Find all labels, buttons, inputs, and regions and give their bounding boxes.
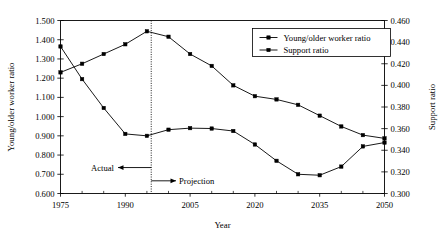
y-tick-label-left: 1.100 xyxy=(35,92,54,102)
series-line xyxy=(61,46,385,175)
data-point xyxy=(124,132,127,135)
legend-marker xyxy=(267,48,270,51)
data-point xyxy=(275,98,278,101)
x-tick-label: 2035 xyxy=(311,200,328,210)
data-point xyxy=(145,134,148,137)
legend-label: Young/older worker ratio xyxy=(284,33,371,43)
x-tick-label: 2005 xyxy=(182,200,199,210)
y-tick-label-right: 0.420 xyxy=(391,59,410,69)
x-tick-label: 1975 xyxy=(52,200,69,210)
data-point xyxy=(340,165,343,168)
data-point xyxy=(80,62,83,65)
y-tick-label-right: 0.380 xyxy=(391,102,410,112)
data-point xyxy=(253,143,256,146)
chart-legend: Young/older worker ratioSupport ratio xyxy=(253,29,391,57)
data-point xyxy=(340,125,343,128)
y-tick-label-left: 1.300 xyxy=(35,54,54,64)
projection-arrow-head xyxy=(171,178,177,183)
data-point xyxy=(296,103,299,106)
x-tick-label: 2050 xyxy=(376,200,393,210)
data-point xyxy=(210,64,213,67)
data-point xyxy=(102,52,105,55)
annotation-layer: Actual Projection xyxy=(91,163,215,186)
data-point xyxy=(167,128,170,131)
data-point xyxy=(253,94,256,97)
y-axis-left-ticks: 0.6000.7000.8000.9001.0001.1001.2001.300… xyxy=(35,16,64,199)
y-tick-label-left: 1.500 xyxy=(35,16,54,26)
x-tick-label: 2020 xyxy=(246,200,263,210)
projection-label: Projection xyxy=(179,176,215,186)
y-tick-label-right: 0.340 xyxy=(391,145,410,155)
data-point xyxy=(318,174,321,177)
y-tick-label-left: 0.700 xyxy=(35,169,54,179)
data-point xyxy=(296,173,299,176)
data-point xyxy=(188,126,191,129)
data-point xyxy=(275,159,278,162)
y-tick-label-right: 0.440 xyxy=(391,37,410,47)
data-point xyxy=(59,45,62,48)
y-tick-label-right: 0.360 xyxy=(391,124,410,134)
actual-arrow-head xyxy=(118,165,124,170)
y-axis-title-left: Young/older worker ratio xyxy=(6,62,16,152)
data-point xyxy=(361,145,364,148)
data-point xyxy=(124,43,127,46)
y-tick-label-right: 0.300 xyxy=(391,189,410,199)
data-point xyxy=(80,77,83,80)
y-tick-label-right: 0.460 xyxy=(391,16,410,26)
data-point xyxy=(232,129,235,132)
legend-marker xyxy=(267,36,270,39)
x-axis-title: Year xyxy=(214,220,230,230)
y-tick-label-left: 1.000 xyxy=(35,112,54,122)
actual-label: Actual xyxy=(91,163,115,173)
legend-label: Support ratio xyxy=(284,45,329,55)
y-tick-label-right: 0.320 xyxy=(391,167,410,177)
series-1 xyxy=(59,45,386,177)
x-axis-ticks: 197519902005202020352050 xyxy=(52,194,393,210)
y-tick-label-left: 1.200 xyxy=(35,73,54,83)
y-tick-label-right: 0.400 xyxy=(391,80,410,90)
y-tick-label-left: 1.400 xyxy=(35,35,54,45)
data-point xyxy=(145,30,148,33)
y-axis-title-right: Support ratio xyxy=(427,83,437,130)
data-point xyxy=(59,71,62,74)
x-tick-label: 1990 xyxy=(117,200,134,210)
data-point xyxy=(232,84,235,87)
y-tick-label-left: 0.800 xyxy=(35,150,54,160)
data-point xyxy=(383,137,386,140)
chart-container: 0.6000.7000.8000.9001.0001.1001.2001.300… xyxy=(0,0,447,242)
data-point xyxy=(383,141,386,144)
data-point xyxy=(188,52,191,55)
y-tick-label-left: 0.600 xyxy=(35,189,54,199)
y-tick-label-left: 0.900 xyxy=(35,131,54,141)
data-point xyxy=(210,127,213,130)
data-point xyxy=(167,35,170,38)
data-point xyxy=(318,114,321,117)
data-point xyxy=(102,106,105,109)
dual-axis-line-chart: 0.6000.7000.8000.9001.0001.1001.2001.300… xyxy=(0,0,447,242)
data-point xyxy=(361,133,364,136)
